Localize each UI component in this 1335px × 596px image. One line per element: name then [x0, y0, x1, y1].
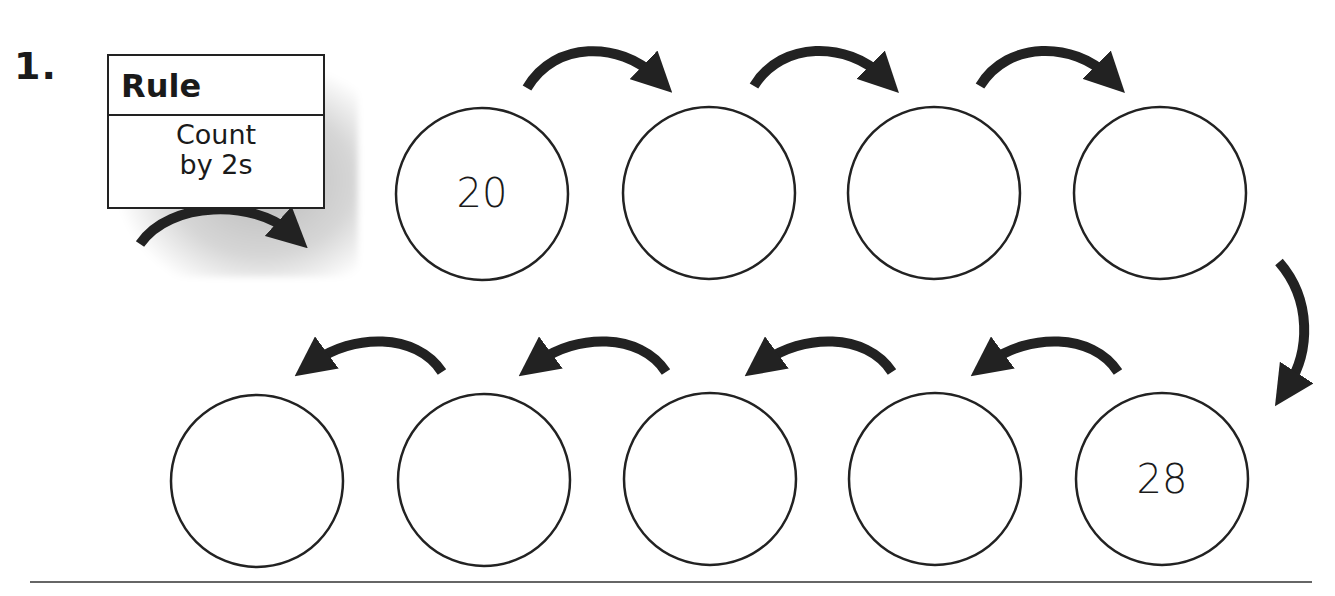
rule-title: Rule [109, 56, 323, 116]
rule-box: Rule Count by 2s [107, 54, 325, 209]
number-circle-8[interactable] [398, 394, 570, 566]
arrow-right-icon [754, 51, 882, 86]
arrow-left-icon [764, 341, 892, 372]
arrow-left-icon [990, 341, 1118, 372]
arrow-left-icon [538, 341, 666, 372]
rule-line-1: Count [109, 120, 323, 150]
rule-line-2: by 2s [109, 150, 323, 180]
number-circle-6[interactable] [849, 393, 1021, 565]
number-circle-7[interactable] [624, 393, 796, 565]
number-circle-3[interactable] [848, 107, 1020, 279]
number-circle-2[interactable] [623, 107, 795, 279]
arrow-down-icon [1279, 262, 1304, 386]
number-circle-9[interactable] [171, 395, 343, 567]
rule-arrow-icon [140, 209, 290, 244]
rule-text: Count by 2s [109, 116, 323, 180]
arrow-left-icon [314, 341, 442, 372]
arrow-right-icon [980, 51, 1108, 86]
circle-value-1: 20 [396, 170, 568, 216]
arrow-right-icon [527, 51, 655, 88]
number-circle-4[interactable] [1074, 107, 1246, 279]
circle-value-5: 28 [1076, 456, 1248, 502]
